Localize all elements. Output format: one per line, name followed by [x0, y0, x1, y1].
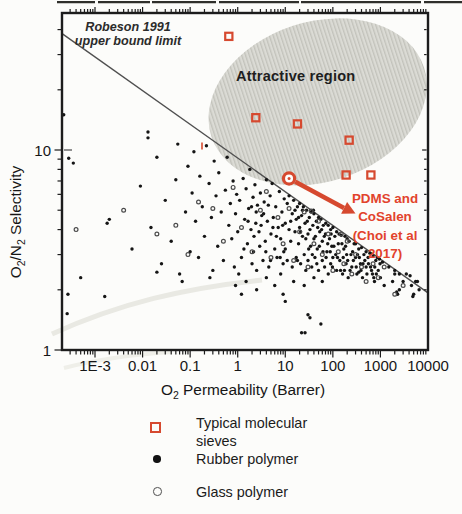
data-point-glass-polymer: [364, 280, 368, 284]
data-point-rubber-polymer: [130, 247, 133, 250]
data-point-rubber-polymer: [329, 250, 332, 253]
y-axis-title-text2: /N: [7, 245, 24, 260]
data-point-rubber-polymer: [333, 235, 336, 238]
data-point-glass-polymer: [259, 208, 263, 212]
data-point-glass-polymer: [276, 216, 280, 220]
data-point-rubber-polymer: [324, 256, 327, 259]
annotation-line2: CoSalen: [349, 208, 421, 226]
data-point-rubber-polymer: [72, 161, 75, 164]
data-point-rubber-polymer: [298, 202, 301, 205]
data-point-rubber-polymer: [67, 156, 70, 159]
data-point-rubber-polymer: [261, 259, 264, 262]
x-tick-label: 10: [277, 357, 294, 374]
data-point-rubber-polymer: [250, 262, 253, 265]
data-point-rubber-polymer: [237, 272, 240, 275]
data-point-rubber-polymer: [273, 284, 276, 287]
data-point-glass-polymer: [269, 256, 273, 260]
data-point-rubber-polymer: [417, 288, 420, 291]
data-point-rubber-polymer: [103, 295, 106, 298]
y-axis-title-rest: Selectivity: [7, 166, 24, 240]
data-point-rubber-polymer: [155, 270, 158, 273]
data-point-rubber-polymer: [211, 269, 214, 272]
data-point-rubber-polymer: [303, 253, 306, 256]
data-point-rubber-polymer: [303, 331, 306, 334]
data-point-rubber-polymer: [278, 256, 281, 259]
data-point-rubber-polymer: [293, 230, 296, 233]
y-axis-title: O2/N2 Selectivity: [7, 166, 27, 279]
data-point-rubber-polymer: [224, 188, 227, 191]
data-point-rubber-polymer: [236, 230, 239, 233]
legend-label-glass-polymer: Glass polymer: [196, 483, 376, 501]
data-point-rubber-polymer: [248, 168, 251, 171]
data-point-glass-polymer: [302, 210, 306, 214]
data-point-rubber-polymer: [280, 210, 283, 213]
data-point-rubber-polymer: [207, 182, 210, 185]
data-point-rubber-polymer: [262, 212, 265, 215]
data-point-rubber-polymer: [243, 218, 246, 221]
data-point-rubber-polymer: [275, 256, 278, 259]
data-point-rubber-polymer: [108, 218, 111, 221]
data-point-rubber-polymer: [337, 242, 340, 245]
data-point-rubber-polymer: [267, 265, 270, 268]
data-point-rubber-polymer: [266, 220, 269, 223]
data-point-glass-polymer: [376, 276, 380, 280]
data-point-rubber-polymer: [250, 205, 253, 208]
y-axis-title-text: O: [7, 266, 24, 278]
data-point-molecular-sieve: [225, 33, 232, 40]
data-point-glass-polymer: [174, 223, 178, 227]
x-tick-label: 0.1: [180, 357, 201, 374]
data-point-rubber-polymer: [234, 284, 237, 287]
data-point-rubber-polymer: [312, 276, 315, 279]
data-point-rubber-polymer: [292, 280, 295, 283]
data-point-glass-polymer: [382, 265, 386, 269]
data-point-rubber-polymer: [346, 276, 349, 279]
data-point-rubber-polymer: [364, 265, 367, 268]
data-point-rubber-polymer: [355, 265, 358, 268]
data-point-rubber-polymer: [311, 253, 314, 256]
data-point-rubber-polymer: [216, 245, 219, 248]
data-point-rubber-polymer: [342, 256, 345, 259]
data-point-rubber-polymer: [269, 232, 272, 235]
data-point-glass-polymer: [221, 239, 225, 243]
data-point-rubber-polymer: [320, 228, 323, 231]
data-point-rubber-polymer: [247, 207, 250, 210]
data-point-rubber-polymer: [244, 280, 247, 283]
data-point-rubber-polymer: [279, 272, 282, 275]
data-point-rubber-polymer: [382, 284, 385, 287]
data-point-rubber-polymer: [315, 262, 318, 265]
legend-label-rubber-polymer: Rubber polymer: [196, 450, 376, 468]
data-point-rubber-polymer: [270, 182, 273, 185]
data-point-rubber-polymer: [210, 216, 213, 219]
data-point-rubber-polymer: [387, 265, 390, 268]
data-point-rubber-polymer: [155, 156, 158, 159]
x-tick-label: 1: [234, 357, 242, 374]
data-point-rubber-polymer: [284, 222, 287, 225]
data-point-rubber-polymer: [309, 245, 312, 248]
data-point-rubber-polymer: [178, 272, 181, 275]
data-point-rubber-polymer: [361, 276, 364, 279]
data-point-rubber-polymer: [308, 228, 311, 231]
data-point-rubber-polymer: [350, 265, 353, 268]
data-point-rubber-polymer: [306, 259, 309, 262]
x-axis-title-text: O: [161, 381, 173, 398]
legend-marker-glass-polymer-icon: [153, 487, 162, 496]
data-point-rubber-polymer: [296, 205, 299, 208]
data-point-glass-polymer: [287, 207, 291, 211]
data-point-rubber-polymer: [149, 226, 152, 229]
data-point-rubber-polymer: [293, 209, 296, 212]
data-point-glass-polymer: [197, 200, 201, 204]
data-point-rubber-polymer: [327, 272, 330, 275]
data-point-rubber-polymer: [372, 276, 375, 279]
data-point-rubber-polymer: [212, 159, 215, 162]
data-point-rubber-polymer: [401, 280, 404, 283]
data-point-rubber-polymer: [398, 288, 401, 291]
data-point-rubber-polymer: [244, 187, 247, 190]
data-point-rubber-polymer: [259, 224, 262, 227]
y-axis-title-subscript1: 2: [15, 260, 27, 266]
annotation-line4: 2017): [349, 245, 421, 263]
data-point-rubber-polymer: [301, 235, 304, 238]
data-point-rubber-polymer: [180, 280, 183, 283]
pdms-cosalen-annotation: PDMS and CoSalen (Choi et al 2017): [349, 190, 421, 264]
data-point-rubber-polymer: [286, 259, 289, 262]
data-point-rubber-polymer: [289, 220, 292, 223]
